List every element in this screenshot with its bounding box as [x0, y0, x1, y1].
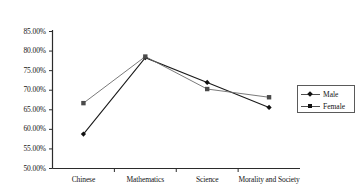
legend-label-male: Male	[323, 90, 338, 99]
data-point-marker	[266, 105, 271, 110]
y-axis-tick-label: 65.00%	[4, 105, 46, 114]
data-series-layer	[81, 54, 272, 136]
y-axis-tick-label: 50.00%	[4, 164, 46, 173]
legend-marker-female-icon	[301, 102, 320, 111]
legend-item-male: Male	[298, 88, 354, 100]
legend-item-female: Female	[298, 100, 354, 112]
series-female	[81, 54, 271, 105]
data-point-marker	[205, 87, 209, 91]
y-axis-tick-label: 80.00%	[4, 46, 46, 55]
data-point-marker	[81, 101, 85, 105]
legend-marker-male-icon	[301, 90, 320, 99]
series-male	[81, 55, 272, 137]
y-axis-tick-label: 55.00%	[4, 144, 46, 153]
y-axis-tick-label: 60.00%	[4, 124, 46, 133]
data-point-marker	[267, 95, 271, 99]
series-line	[83, 58, 269, 134]
legend: Male Female	[297, 85, 355, 113]
line-chart: 50.00%55.00%60.00%65.00%70.00%75.00%80.0…	[0, 0, 362, 193]
data-point-marker	[205, 80, 210, 85]
y-axis-tick-label: 85.00%	[4, 27, 46, 36]
data-point-marker	[143, 54, 147, 58]
x-axis-category-label: Morality and Society	[214, 175, 324, 184]
legend-label-female: Female	[323, 102, 345, 111]
y-axis-tick-label: 70.00%	[4, 85, 46, 94]
y-axis-tick-label: 75.00%	[4, 66, 46, 75]
